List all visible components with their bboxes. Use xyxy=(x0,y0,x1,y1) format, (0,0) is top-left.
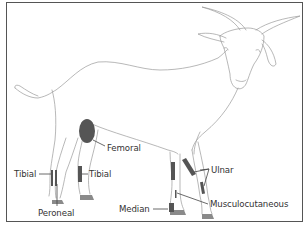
ulnar-far-marker xyxy=(200,182,205,194)
goat-illustration xyxy=(0,0,307,227)
label-median: Median xyxy=(119,205,150,214)
label-ulnar: Ulnar xyxy=(211,166,233,175)
musculocutaneous-marker xyxy=(175,190,177,198)
goat-back-outline xyxy=(15,50,227,98)
label-tibial-hind-near: Tibial xyxy=(89,170,111,179)
tibial-hind-far-marker xyxy=(51,170,53,186)
goat-neck-front xyxy=(192,88,238,150)
label-tibial-hind-far: Tibial xyxy=(14,170,36,179)
hind-leg-far xyxy=(55,138,78,198)
hoof-hind-far xyxy=(52,200,64,204)
front-leg-marker xyxy=(171,162,175,180)
label-peroneal: Peroneal xyxy=(38,209,74,218)
goat-horn-right xyxy=(256,16,300,34)
goat-nose xyxy=(236,80,246,82)
label-musculocutaneous: Musculocutaneous xyxy=(210,200,288,209)
label-femoral: Femoral xyxy=(107,144,141,153)
femoral-marker xyxy=(79,119,95,143)
hoof-front-far xyxy=(202,214,214,219)
tibial-hind-near-marker xyxy=(78,166,82,182)
goat-ear-right xyxy=(262,40,276,66)
front-leg-far xyxy=(192,142,212,214)
peroneal-marker xyxy=(55,170,57,186)
goat-eye-right xyxy=(256,50,260,52)
goat-head xyxy=(220,28,264,89)
median-marker xyxy=(169,203,174,212)
front-leg-near xyxy=(170,152,184,210)
goat-horn-left xyxy=(202,7,246,30)
hoof-hind-near xyxy=(80,195,94,200)
